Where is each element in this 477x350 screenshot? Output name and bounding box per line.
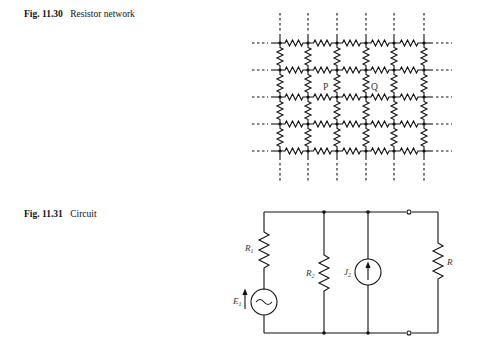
terminal-bottom [407,331,411,335]
resistor-r1 [259,212,269,290]
terminal-top [407,210,411,214]
node-label-q: Q [371,82,378,92]
label-j2: J2 [344,267,351,278]
label-r: R [446,257,453,267]
label-r2: R2 [305,268,315,279]
figures-canvas: P Q R1 R2 J2 E1 R [0,0,477,350]
circuit-diagram [243,210,443,335]
resistor-r2 [319,212,329,333]
resistor-network-diagram [252,13,452,181]
node-label-p: P [323,82,328,92]
label-e1: E1 [232,296,242,307]
sine-wave-icon [256,300,272,305]
resistor-r [433,212,443,333]
label-r1: R1 [244,243,254,254]
